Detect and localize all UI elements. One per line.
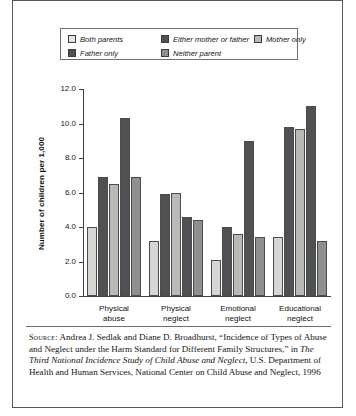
chart-legend: Both parentsEither mother or fatherMothe… xyxy=(60,28,298,60)
chart-bar[interactable] xyxy=(284,127,294,296)
legend-item-label: Mother only xyxy=(266,35,306,44)
legend-swatch-icon xyxy=(68,35,76,43)
legend-item-label: Father only xyxy=(80,49,118,58)
y-axis-tick xyxy=(79,262,83,263)
chart-bar[interactable] xyxy=(211,260,221,296)
legend-item[interactable]: Father only xyxy=(68,49,118,58)
source-label: Source: xyxy=(29,333,58,342)
legend-row: Father onlyNeither parent xyxy=(68,47,291,59)
legend-item-label: Both parents xyxy=(80,35,123,44)
chart-bar[interactable] xyxy=(306,106,316,296)
source-note: Source: Andrea J. Sedlak and Diane D. Br… xyxy=(29,332,331,378)
y-axis-tick xyxy=(79,89,83,90)
source-divider xyxy=(26,326,331,327)
chart-bar[interactable] xyxy=(149,241,159,296)
y-axis-tick-label: 8.0 xyxy=(65,154,76,162)
plot-area: 0.02.04.06.08.010.012.0PhysicalabusePhys… xyxy=(83,89,331,297)
y-axis-tick xyxy=(79,296,83,297)
legend-row: Both parentsEither mother or fatherMothe… xyxy=(68,33,291,45)
source-text-first: Andrea J. Sedlak and Diane D. Broadhurst… xyxy=(29,332,327,354)
chart-bar[interactable] xyxy=(98,177,108,296)
y-axis-tick-label: 10.0 xyxy=(60,120,76,128)
y-axis-tick-label: 4.0 xyxy=(65,223,76,231)
chart-bar[interactable] xyxy=(109,184,119,296)
y-axis-tick-label: 2.0 xyxy=(65,258,76,266)
chart-bar[interactable] xyxy=(120,118,130,296)
y-axis-line xyxy=(83,89,84,297)
bar-group xyxy=(149,193,203,297)
legend-item[interactable]: Mother only xyxy=(254,35,306,44)
chart-bar[interactable] xyxy=(273,237,283,296)
legend-swatch-icon xyxy=(254,35,262,43)
chart-bar[interactable] xyxy=(222,227,232,296)
y-axis-title: Number of children per 1,000 xyxy=(36,89,48,297)
chart-bar[interactable] xyxy=(244,141,254,296)
y-axis-title-label: Number of children per 1,000 xyxy=(38,136,47,249)
legend-item[interactable]: Neither parent xyxy=(161,49,221,58)
y-axis-tick xyxy=(79,158,83,159)
legend-item[interactable]: Both parents xyxy=(68,35,123,44)
x-axis-line xyxy=(83,296,331,297)
chart-bar[interactable] xyxy=(131,177,141,296)
chart-bar[interactable] xyxy=(160,194,170,296)
legend-item-label: Neither parent xyxy=(173,49,221,58)
legend-swatch-icon xyxy=(68,49,76,57)
y-axis-tick xyxy=(79,227,83,228)
y-axis-tick xyxy=(79,193,83,194)
y-axis-tick-label: 0.0 xyxy=(65,292,76,300)
bar-group xyxy=(87,118,141,296)
figure-panel: Both parentsEither mother or fatherMothe… xyxy=(12,0,343,408)
legend-swatch-icon xyxy=(161,49,169,57)
chart-bar[interactable] xyxy=(233,234,243,296)
chart-bar[interactable] xyxy=(193,220,203,296)
legend-swatch-icon xyxy=(161,35,169,43)
chart-bar[interactable] xyxy=(182,217,192,296)
x-axis-category-line: Educational xyxy=(255,304,345,314)
x-axis-category-line: neglect xyxy=(255,314,345,324)
bar-group xyxy=(211,141,265,296)
bar-group xyxy=(273,106,327,296)
chart-bar[interactable] xyxy=(317,241,327,296)
x-axis-category-label: Educationalneglect xyxy=(255,304,345,324)
y-axis-tick-label: 12.0 xyxy=(60,85,76,93)
y-axis-tick xyxy=(79,124,83,125)
chart-bar[interactable] xyxy=(87,227,97,296)
chart-bar[interactable] xyxy=(171,193,181,297)
y-axis-tick-label: 6.0 xyxy=(65,189,76,197)
chart-bar[interactable] xyxy=(295,129,305,296)
legend-item[interactable]: Either mother or father xyxy=(161,35,249,44)
chart-bar[interactable] xyxy=(255,237,265,296)
legend-item-label: Either mother or father xyxy=(173,35,249,44)
